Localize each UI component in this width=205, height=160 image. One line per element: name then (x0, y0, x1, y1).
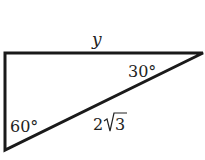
angle-label-30: 30° (128, 62, 156, 81)
hypotenuse-radicand: 3 (115, 115, 125, 134)
hypotenuse-coefficient: 2 (93, 115, 103, 134)
triangle-diagram: y 30° 60° 2 3 (0, 0, 205, 160)
hypotenuse-label: 2 3 (93, 113, 127, 134)
side-label-y: y (91, 29, 102, 49)
angle-label-60: 60° (10, 117, 38, 136)
